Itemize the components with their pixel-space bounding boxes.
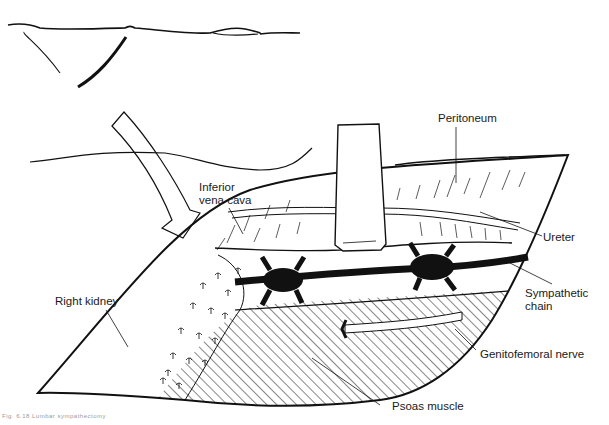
label-sympathetic-chain-line1: Sympathetic — [525, 287, 588, 300]
approach-arrow — [112, 112, 200, 238]
retractor-blade — [335, 124, 386, 251]
label-inferior-vena-cava-line1: Inferior — [199, 181, 235, 194]
label-peritoneum: Peritoneum — [438, 112, 497, 125]
label-right-kidney: Right kidney — [55, 295, 118, 308]
label-sympathetic-chain-line2: chain — [525, 300, 553, 313]
label-ureter: Ureter — [543, 231, 575, 244]
label-psoas-muscle: Psoas muscle — [392, 400, 464, 413]
anatomical-diagram — [0, 0, 609, 425]
label-inferior-vena-cava-line2: vena cava — [199, 194, 251, 207]
label-genitofemoral-nerve: Genitofemoral nerve — [480, 348, 584, 361]
patient-outline-inset — [8, 24, 300, 87]
figure-caption: Fig. 6.18 Lumbar sympathectomy — [2, 413, 106, 419]
flank-contour — [30, 148, 312, 170]
